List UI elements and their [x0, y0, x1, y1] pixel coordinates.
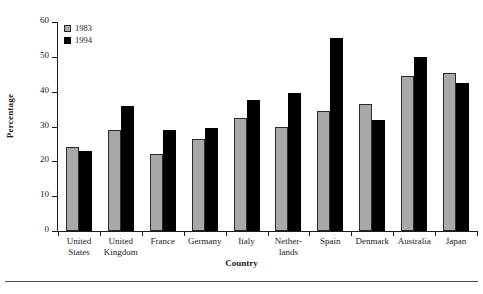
bar-1983	[401, 76, 414, 231]
x-axis-label-line: Japan	[423, 236, 483, 247]
legend-label-1994: 1994	[75, 35, 92, 45]
bar-1994	[330, 38, 343, 231]
bar-1983	[317, 111, 330, 231]
bar-1983	[150, 154, 163, 231]
bar-1983	[234, 118, 247, 231]
bar-group	[108, 22, 134, 231]
y-axis-tick-label: 30	[27, 120, 49, 130]
bar-group	[317, 22, 343, 231]
bar-1994	[414, 57, 427, 231]
bar-chart-figure: Percentage 0102030405060 UnitedStatesUni…	[0, 0, 483, 294]
y-axis-tick-label: 0	[27, 224, 49, 234]
bar-group	[234, 22, 260, 231]
y-axis-tick: 40	[52, 92, 58, 93]
y-axis-tick-label: 60	[27, 15, 49, 25]
legend-item-1983: 1983	[64, 22, 92, 34]
bar-1983	[443, 73, 456, 231]
y-axis-tick-label: 50	[27, 50, 49, 60]
x-axis-label: Japan	[423, 236, 483, 247]
bar-1994	[121, 106, 134, 231]
bar-1994	[205, 128, 218, 231]
bar-1983	[108, 130, 121, 231]
y-axis-tick-label: 40	[27, 85, 49, 95]
bar-group	[275, 22, 301, 231]
y-axis-tick-label: 10	[27, 189, 49, 199]
x-axis-title: Country	[0, 258, 483, 268]
y-axis-tick: 10	[52, 196, 58, 197]
bar-1994	[456, 83, 469, 231]
bar-group	[66, 22, 92, 231]
bar-1994	[288, 93, 301, 231]
bar-1994	[79, 151, 92, 231]
y-axis-tick-label: 20	[27, 154, 49, 164]
bar-1994	[372, 120, 385, 231]
y-axis-tick: 60	[52, 22, 58, 23]
bar-1994	[163, 130, 176, 231]
bar-group	[359, 22, 385, 231]
chart-legend: 1983 1994	[64, 22, 92, 46]
bar-1983	[66, 147, 79, 231]
bar-group	[192, 22, 218, 231]
bar-1994	[247, 100, 260, 231]
y-axis-title: Percentage	[2, 0, 18, 232]
bar-group	[150, 22, 176, 231]
bar-1983	[192, 139, 205, 231]
legend-item-1994: 1994	[64, 34, 92, 46]
y-axis-tick: 20	[52, 161, 58, 162]
black-swatch	[64, 37, 71, 44]
x-axis-label-line: lands	[255, 247, 321, 258]
y-axis-title-text: Percentage	[5, 94, 15, 138]
bar-group	[443, 22, 469, 231]
x-axis-label-line: Kingdom	[88, 247, 154, 258]
bar-1983	[275, 127, 288, 232]
y-axis-tick: 50	[52, 57, 58, 58]
bar-1983	[359, 104, 372, 231]
bar-group	[401, 22, 427, 231]
plot-area: 0102030405060 UnitedStatesUnitedKingdomF…	[58, 22, 477, 231]
footer-divider	[5, 281, 478, 282]
gray-hatched-swatch	[64, 25, 71, 32]
legend-label-1983: 1983	[75, 23, 92, 33]
y-axis-tick: 30	[52, 127, 58, 128]
